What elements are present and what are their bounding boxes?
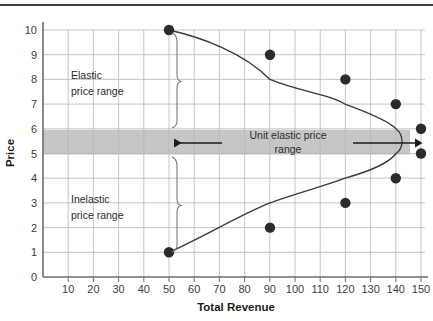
data-point [416,148,426,158]
inelastic-range-annotation: Inelastic price range [71,193,124,221]
x-tick-label: 150 [412,283,430,295]
x-tick-labels: 10 20 30 40 50 60 70 80 90 100 110 120 1… [62,283,430,295]
y-tick-label: 8 [31,73,37,85]
x-tick-label: 10 [62,283,74,295]
y-tick-label: 6 [31,123,37,135]
inelastic-range-label-line1: Inelastic [71,193,110,205]
x-tick-label: 20 [87,283,99,295]
x-tick-label: 40 [138,283,150,295]
unit-elastic-band [43,130,410,155]
x-tick-label: 80 [238,283,250,295]
data-point [391,173,401,183]
x-axis-title: Total Revenue [197,301,275,313]
chart-figure: 10 20 30 40 50 60 70 80 90 100 110 120 1… [0,0,433,321]
x-tick-label: 100 [286,283,304,295]
y-tick-label: 3 [31,197,37,209]
inelastic-range-brace [172,157,181,252]
x-tick-label: 50 [163,283,175,295]
data-point [265,222,275,232]
elastic-range-label-line1: Elastic [71,69,102,81]
total-revenue-chart: 10 20 30 40 50 60 70 80 90 100 110 120 1… [0,0,433,321]
y-tick-labels: 0 1 2 3 4 5 6 7 8 9 10 [25,24,37,283]
y-tick-label: 7 [31,98,37,110]
top-divider-rule [0,4,433,6]
data-point [265,50,275,60]
y-axis-title: Price [4,139,16,167]
y-tick-label: 0 [31,271,37,283]
x-tick-label: 90 [264,283,276,295]
elastic-range-annotation: Elastic price range [71,69,124,97]
x-tick-label: 110 [311,283,329,295]
x-tick-label: 70 [213,283,225,295]
y-tick-label: 9 [31,49,37,61]
x-tick-label: 130 [361,283,379,295]
inelastic-range-label-line2: price range [71,209,124,221]
elastic-range-brace [172,33,181,128]
data-point [340,198,350,208]
x-tick-label: 30 [112,283,124,295]
y-tick-label: 10 [25,24,37,36]
band-label-line2: range [275,143,302,155]
x-tick-label: 60 [188,283,200,295]
data-point [340,74,350,84]
y-tick-label: 1 [31,246,37,258]
y-tick-label: 5 [31,148,37,160]
band-label-line1: Unit elastic price [249,129,326,141]
elastic-range-label-line2: price range [71,85,124,97]
data-point [416,124,426,134]
x-tick-label: 120 [336,283,354,295]
x-tick-label: 140 [387,283,405,295]
y-tick-label: 4 [31,172,37,184]
data-point [391,99,401,109]
y-tick-label: 2 [31,222,37,234]
